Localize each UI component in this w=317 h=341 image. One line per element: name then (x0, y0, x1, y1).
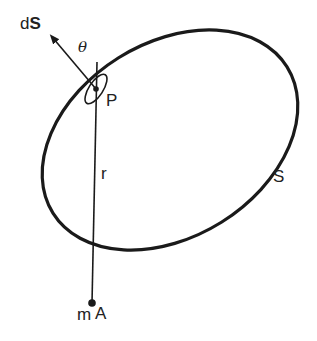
distance-r-label: r (101, 165, 107, 182)
closed-surface (2, 0, 317, 295)
ds-label: dS (20, 15, 41, 32)
point-p-label: P (106, 92, 117, 109)
surface-s-label: S (273, 168, 284, 185)
ds-label-vector: S (29, 14, 40, 33)
diagram-canvas (0, 0, 317, 341)
ds-vector-arrow (53, 38, 96, 89)
mass-m-label: m (77, 306, 91, 323)
radius-line (92, 62, 97, 303)
point-a-label: A (95, 305, 106, 322)
theta-label: θ (78, 40, 87, 55)
